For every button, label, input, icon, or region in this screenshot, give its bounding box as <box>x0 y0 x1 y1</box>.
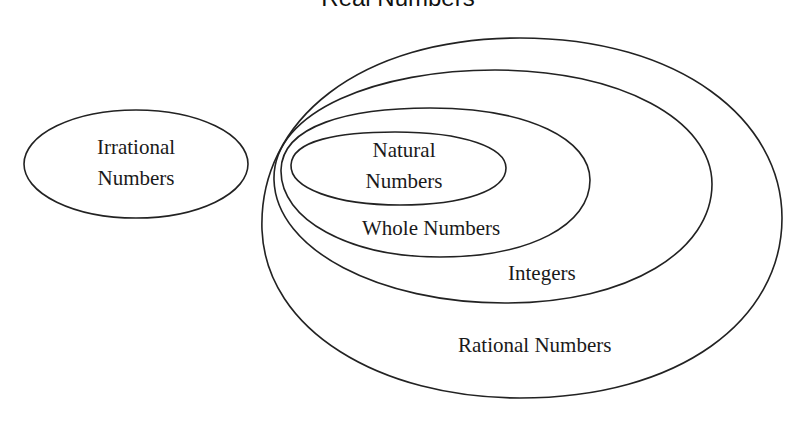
integers-label: Integers <box>508 258 576 289</box>
rational-label: Rational Numbers <box>458 330 611 361</box>
natural-label: Natural Numbers <box>344 135 464 197</box>
natural-label-line1: Natural <box>344 135 464 166</box>
irrational-label: Irrational Numbers <box>76 132 196 194</box>
venn-diagram <box>0 0 796 421</box>
integers-set-ellipse <box>274 70 712 303</box>
irrational-label-line2: Numbers <box>76 163 196 194</box>
natural-label-line2: Numbers <box>344 166 464 197</box>
irrational-label-line1: Irrational <box>76 132 196 163</box>
whole-label: Whole Numbers <box>362 213 500 244</box>
